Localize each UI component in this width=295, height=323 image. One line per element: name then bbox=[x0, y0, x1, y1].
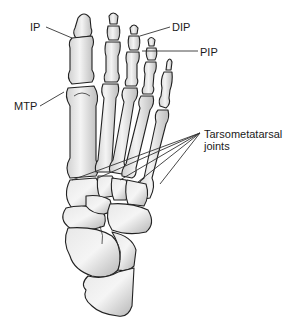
label-pip: PIP bbox=[200, 46, 218, 58]
label-tarsometatarsal-joints: Tarsometatarsal joints bbox=[204, 128, 282, 152]
label-ip: IP bbox=[30, 21, 40, 33]
label-mtp: MTP bbox=[14, 100, 37, 112]
label-dip: DIP bbox=[172, 21, 190, 33]
hallux bbox=[66, 14, 98, 178]
tarsal-bones bbox=[63, 176, 152, 316]
label-tarsometatarsal-line1: Tarsometatarsal bbox=[204, 128, 282, 140]
foot-skeleton-diagram bbox=[0, 0, 295, 323]
label-tarsometatarsal-line2: joints bbox=[204, 140, 282, 152]
